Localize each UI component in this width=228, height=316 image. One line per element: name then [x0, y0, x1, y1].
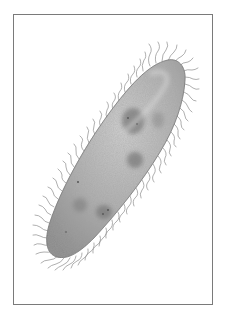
paramecium-illustration [0, 0, 228, 316]
